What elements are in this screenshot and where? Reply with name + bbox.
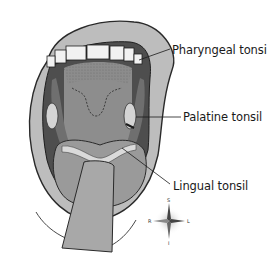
compass-inferior: I — [168, 240, 169, 246]
orientation-compass — [153, 203, 185, 239]
compass-superior: S — [167, 197, 170, 203]
label-palatine-tonsil: Palatine tonsil — [183, 110, 262, 124]
label-pharyngeal-tonsil: Pharyngeal tonsil — [172, 43, 267, 57]
label-lingual-tonsil: Lingual tonsil — [173, 179, 248, 193]
compass-left: L — [187, 218, 190, 224]
compass-right: R — [148, 218, 151, 224]
tonsil-diagram — [0, 0, 267, 266]
